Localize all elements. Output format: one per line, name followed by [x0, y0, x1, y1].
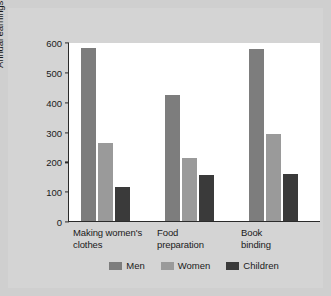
bar-men-group-3: [249, 49, 264, 221]
y-axis-tick-mark: [65, 102, 69, 103]
plot-area: 0100200300400500600Making women's clothe…: [68, 43, 320, 222]
legend-label: Children: [243, 260, 278, 271]
bar-children-group-2: [199, 175, 214, 221]
bar-women-group-2: [182, 158, 197, 221]
y-axis-tick-mark: [65, 132, 69, 133]
x-axis-group-label: Making women's clothes: [73, 227, 142, 250]
y-axis-tick-label: 100: [29, 187, 69, 198]
figure-inner-panel: Annual earnings (in dollars) 01002003004…: [8, 8, 323, 288]
legend-label: Women: [178, 260, 211, 271]
y-axis-tick-mark: [65, 72, 69, 73]
legend-label: Men: [126, 260, 144, 271]
legend-item-children[interactable]: Children: [226, 260, 278, 271]
chart-figure: Annual earnings (in dollars) 01002003004…: [0, 0, 331, 296]
legend-swatch-icon: [226, 262, 239, 270]
y-axis-tick-mark: [65, 162, 69, 163]
x-axis-group-label: Book binding: [241, 227, 271, 250]
legend-item-women[interactable]: Women: [161, 260, 211, 271]
y-axis-tick-mark: [65, 192, 69, 193]
y-axis-tick-mark: [65, 221, 69, 222]
bar-children-group-1: [115, 187, 130, 221]
bar-children-group-3: [283, 174, 298, 221]
y-axis-tick-label: 0: [29, 217, 69, 228]
legend-item-men[interactable]: Men: [109, 260, 144, 271]
chart-legend: MenWomenChildren: [68, 260, 320, 271]
bar-women-group-1: [98, 143, 113, 221]
bar-women-group-3: [266, 134, 281, 221]
y-axis-tick-label: 200: [29, 157, 69, 168]
y-axis-tick-label: 500: [29, 67, 69, 78]
x-axis-group-label: Food preparation: [157, 227, 204, 250]
y-axis-tick-label: 300: [29, 127, 69, 138]
bar-men-group-2: [165, 95, 180, 221]
y-axis-tick-mark: [65, 42, 69, 43]
y-axis-tick-label: 400: [29, 97, 69, 108]
legend-swatch-icon: [109, 262, 122, 270]
bar-men-group-1: [81, 48, 96, 221]
y-axis-label: Annual earnings (in dollars): [0, 0, 5, 68]
y-axis-tick-label: 600: [29, 38, 69, 49]
legend-swatch-icon: [161, 262, 174, 270]
